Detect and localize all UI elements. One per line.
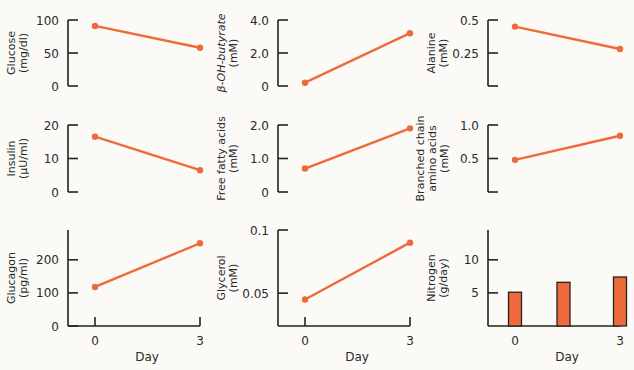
y-axis-label: (μU/ml) — [17, 138, 30, 179]
y-tick-label: 100 — [36, 14, 59, 28]
y-tick-label: 0 — [261, 186, 269, 200]
y-tick-label: 0.25 — [452, 47, 479, 61]
data-point — [617, 46, 623, 52]
y-axis-label: (mg/dl) — [17, 33, 30, 73]
data-point — [407, 239, 413, 245]
y-tick-label: 1.0 — [460, 119, 479, 133]
x-tick-label: 0 — [511, 334, 519, 348]
y-tick-label: 100 — [36, 286, 59, 300]
data-point — [407, 30, 413, 36]
y-tick-label: 0 — [51, 320, 59, 334]
y-tick-label: 5 — [471, 286, 479, 300]
data-line — [515, 136, 620, 160]
data-line — [305, 128, 410, 168]
data-point — [302, 165, 308, 171]
y-axis-label: (pg/ml) — [17, 258, 30, 298]
x-tick-label: 0 — [91, 334, 99, 348]
y-tick-label: 10 — [464, 253, 479, 267]
data-line — [305, 243, 410, 300]
x-tick-label: 3 — [196, 334, 204, 348]
y-axis-label: (mM) — [437, 39, 450, 68]
data-line — [515, 27, 620, 49]
data-bar — [509, 292, 522, 326]
y-axis-label: (mM) — [227, 144, 240, 173]
x-tick-label: 3 — [406, 334, 414, 348]
data-line — [305, 33, 410, 82]
data-point — [512, 23, 518, 29]
panel-beta-oh-butyrate: 4.02.00β-OH-butyrate(mM) — [215, 13, 413, 93]
data-point — [617, 133, 623, 139]
data-point — [197, 167, 203, 173]
metabolic-panels-figure: 100500Glucose(mg/dl)4.02.00β-OH-butyrate… — [0, 0, 634, 370]
data-point — [92, 134, 98, 140]
y-tick-label: 0.05 — [242, 287, 269, 301]
x-axis-label: Day — [555, 350, 579, 364]
y-tick-label: 50 — [44, 47, 59, 61]
data-point — [197, 240, 203, 246]
y-axis-label: (mM) — [227, 264, 240, 293]
y-tick-label: 0.1 — [250, 224, 269, 238]
data-line — [95, 137, 200, 171]
y-axis-label: (mM) — [438, 144, 451, 173]
data-bar — [614, 277, 627, 326]
y-tick-label: 20 — [44, 119, 59, 133]
panel-glucagon: 03Day2001000Glucagon(pg/ml) — [5, 230, 204, 364]
y-axis-label: (mM) — [227, 39, 240, 68]
y-tick-label: 1.0 — [250, 152, 269, 166]
data-point — [197, 45, 203, 51]
y-tick-label: 0.5 — [460, 152, 479, 166]
y-axis-label: (g/day) — [437, 258, 450, 298]
x-tick-label: 0 — [301, 334, 309, 348]
data-bar — [557, 282, 570, 326]
data-point — [302, 296, 308, 302]
y-tick-label: 200 — [36, 253, 59, 267]
data-line — [95, 26, 200, 48]
panel-nitrogen: 03Day105Nitrogen(g/day) — [425, 230, 627, 364]
y-tick-label: 2.0 — [250, 47, 269, 61]
y-tick-label: 4.0 — [250, 14, 269, 28]
data-point — [302, 80, 308, 86]
y-tick-label: 10 — [44, 152, 59, 166]
y-tick-label: 0.5 — [460, 14, 479, 28]
panel-alanine: 0.50.25Alanine(mM) — [425, 14, 623, 87]
panel-glucose: 100500Glucose(mg/dl) — [5, 14, 203, 94]
panel-insulin: 20100Insulin(μU/ml) — [5, 119, 203, 200]
x-axis-label: Day — [345, 350, 369, 364]
data-point — [92, 23, 98, 29]
y-tick-label: 2.0 — [250, 119, 269, 133]
x-axis-label: Day — [135, 350, 159, 364]
data-line — [95, 243, 200, 287]
data-point — [407, 125, 413, 131]
panel-free-fatty-acids: 2.01.00Free fatty acids(mM) — [215, 116, 413, 201]
data-point — [512, 157, 518, 163]
data-point — [92, 284, 98, 290]
panel-glycerol: 03Day0.10.05Glycerol(mM) — [215, 224, 414, 365]
y-tick-label: 0 — [51, 80, 59, 94]
x-tick-label: 3 — [616, 334, 624, 348]
y-tick-label: 0 — [261, 80, 269, 94]
y-tick-label: 0 — [51, 186, 59, 200]
panel-branched-chain-amino-acids: 1.00.5Branched chainamino acids(mM) — [414, 116, 623, 202]
